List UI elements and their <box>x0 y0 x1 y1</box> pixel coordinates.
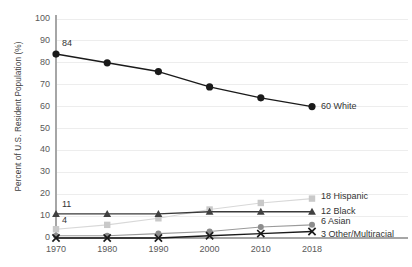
data-point-white <box>155 68 162 75</box>
y-axis-tick-label: 10 <box>24 210 50 220</box>
y-axis-tick-label: 50 <box>24 123 50 133</box>
data-point-hispanic <box>309 195 315 201</box>
x-axis-tick-label: 1980 <box>87 244 127 254</box>
series-end-label-black: 12 Black <box>321 206 356 216</box>
y-axis-tick-label: 40 <box>24 144 50 154</box>
data-point-asian <box>258 224 264 230</box>
x-axis-tick-label: 1970 <box>36 244 76 254</box>
x-axis-tick-label: 1990 <box>138 244 178 254</box>
data-point-hispanic <box>258 200 264 206</box>
series-end-label-hispanic: 18 Hispanic <box>321 191 368 201</box>
x-axis-tick-label: 2000 <box>190 244 230 254</box>
data-point-white <box>257 94 264 101</box>
y-axis-tick-label: 30 <box>24 166 50 176</box>
data-point-white <box>206 83 213 90</box>
data-point-hispanic <box>53 226 59 232</box>
series-end-label-asian: 6 Asian <box>321 216 351 226</box>
data-point-white <box>52 50 59 57</box>
y-axis-tick-label: 60 <box>24 101 50 111</box>
y-axis-tick-label: 90 <box>24 35 50 45</box>
series-start-label-hispanic: 4 <box>62 215 67 225</box>
series-start-label-black: 11 <box>62 199 71 209</box>
series-end-label-white: 60 White <box>321 101 357 111</box>
data-point-white <box>104 59 111 66</box>
chart-container: Percent of U.S. Resident Population (%) … <box>0 0 412 267</box>
data-point-asian <box>309 222 315 228</box>
x-axis-tick-label: 2018 <box>292 244 332 254</box>
y-axis-tick-label: 100 <box>24 13 50 23</box>
y-axis-tick-label: 20 <box>24 188 50 198</box>
y-axis-tick-label: 70 <box>24 79 50 89</box>
data-point-white <box>308 103 315 110</box>
series-end-label-other-multiracial: 3 Other/Multiracial <box>321 229 394 239</box>
series-line-white <box>56 54 312 107</box>
y-axis-tick-label: 0 <box>24 232 50 242</box>
y-axis-tick-label: 80 <box>24 57 50 67</box>
x-axis-tick-label: 2010 <box>241 244 281 254</box>
series-start-label-white: 84 <box>62 38 72 48</box>
data-point-hispanic <box>104 222 110 228</box>
